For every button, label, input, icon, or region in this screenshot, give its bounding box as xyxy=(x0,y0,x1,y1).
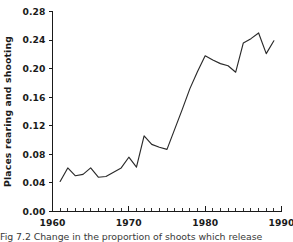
figure-caption: Fig 7.2 Change in the proportion of shoo… xyxy=(0,231,293,242)
x-tick-label: 1980 xyxy=(192,217,218,228)
y-tick-label: 0.04 xyxy=(22,177,45,188)
line-chart: 0.000.040.080.120.160.200.240.28 1960197… xyxy=(0,0,293,232)
y-axis-tick-labels: 0.000.040.080.120.160.200.240.28 xyxy=(22,6,45,217)
x-tick-label: 1970 xyxy=(116,217,142,228)
y-tick-label: 0.28 xyxy=(22,6,45,17)
y-tick-label: 0.08 xyxy=(22,149,45,160)
data-series-line xyxy=(60,33,274,182)
y-tick-label: 0.00 xyxy=(22,206,45,217)
y-tick-label: 0.24 xyxy=(22,34,45,45)
y-axis-ticks xyxy=(49,12,53,212)
y-axis-title: Places rearing and shooting xyxy=(2,36,13,187)
x-tick-label: 1990 xyxy=(269,217,293,228)
y-tick-label: 0.12 xyxy=(22,120,45,131)
y-tick-label: 0.16 xyxy=(22,92,45,103)
x-axis-tick-labels: 1960197019801990 xyxy=(40,217,293,228)
figure-container: 0.000.040.080.120.160.200.240.28 1960197… xyxy=(0,0,293,242)
y-tick-label: 0.20 xyxy=(22,63,45,74)
x-tick-label: 1960 xyxy=(40,217,66,228)
